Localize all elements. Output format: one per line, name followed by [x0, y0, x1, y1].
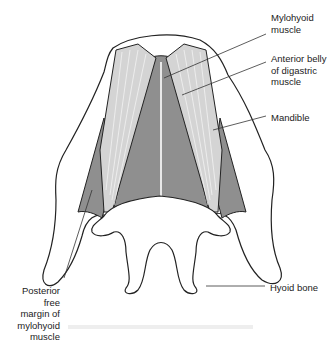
label-anterior-belly-digastric: Anterior belly of digastric muscle — [271, 53, 326, 88]
label-hyoid-bone: Hyoid bone — [270, 282, 318, 294]
label-mandible: Mandible — [271, 112, 310, 124]
label-posterior-free-margin: Posterior free margin of mylohyoid muscl… — [4, 285, 60, 343]
bottom-bar — [68, 325, 253, 329]
label-mylohyoid-muscle: Mylohyoid muscle — [271, 12, 314, 35]
hyoid-bone — [92, 196, 231, 294]
